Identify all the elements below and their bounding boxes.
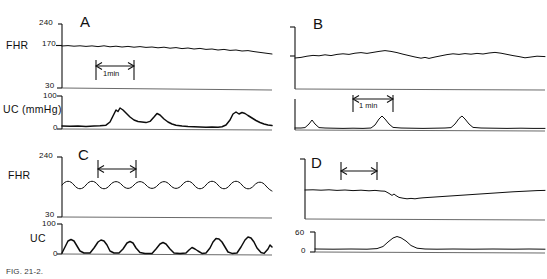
panel-c-fhr-xaxis bbox=[62, 217, 272, 218]
panel-d-fhr-trace bbox=[305, 190, 545, 199]
panel-b: B 1 min bbox=[273, 0, 547, 137]
panel-b-fhr-trace bbox=[295, 51, 545, 59]
panel-c-uc-trace bbox=[62, 237, 272, 253]
panel-a-fhr-xaxis bbox=[62, 88, 272, 90]
panel-b-uc-trace bbox=[295, 116, 545, 128]
panel-a-svg bbox=[0, 0, 273, 137]
panel-b-svg bbox=[273, 0, 547, 137]
figure-fhr-uc-tracings: A FHR 240 170 30 100 UC (mmHg) 0 1min bbox=[0, 0, 547, 279]
panel-d-svg bbox=[273, 137, 547, 257]
panel-c: C FHR 240 30 100 UC 0 bbox=[0, 137, 273, 257]
panel-d-uc-xaxis bbox=[315, 252, 545, 253]
panel-c-svg bbox=[0, 137, 273, 257]
panel-a-uc-trace bbox=[62, 108, 272, 127]
panel-b-fhr-xaxis bbox=[295, 89, 545, 90]
panel-c-fhr-trace bbox=[62, 181, 272, 191]
panel-b-uc-xaxis bbox=[295, 130, 545, 131]
panel-a-fhr-trace bbox=[62, 46, 272, 54]
figure-caption: FIG. 21-2. bbox=[6, 268, 43, 277]
panel-d-uc-trace bbox=[315, 237, 545, 250]
panel-a-uc-xaxis bbox=[62, 129, 272, 130]
panel-d: D 60 0 bbox=[273, 137, 547, 257]
panel-c-uc-xaxis bbox=[62, 254, 272, 255]
panel-d-fhr-xaxis bbox=[305, 219, 545, 220]
panel-a: A FHR 240 170 30 100 UC (mmHg) 0 1min bbox=[0, 0, 273, 137]
